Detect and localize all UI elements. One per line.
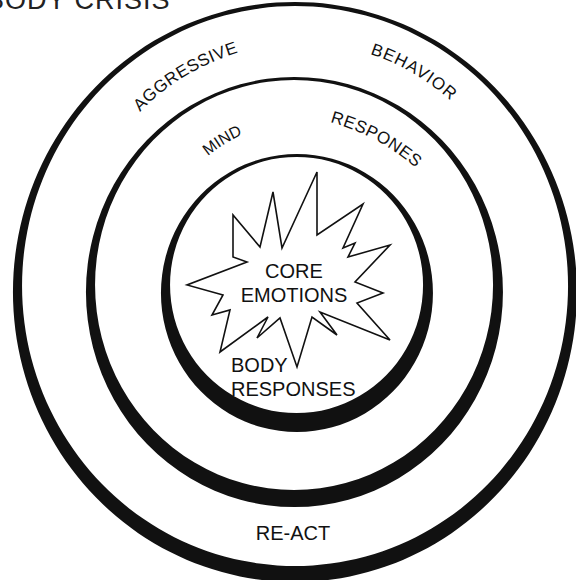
label-body: BODY [231, 354, 288, 376]
label-core: CORE [265, 260, 323, 282]
label-emotions: EMOTIONS [241, 284, 348, 306]
label-re-act: RE-ACT [256, 522, 330, 544]
concentric-rings-diagram: AGGRESSIVE BEHAVIOR MIND RESPONES CORE E… [0, 0, 576, 580]
label-responses: RESPONSES [231, 378, 355, 400]
label-mind: MIND [199, 122, 243, 158]
